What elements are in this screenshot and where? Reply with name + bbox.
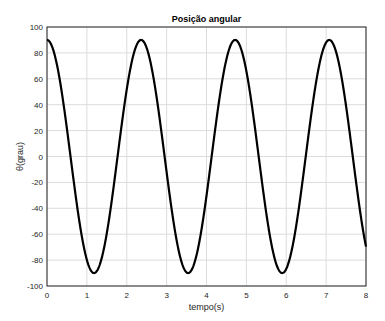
x-tick-label: 5 [244,291,249,300]
x-tick-label: 0 [45,291,50,300]
y-tick-label: 60 [34,75,43,84]
chart: 012345678100806040200-20-40-60-80-100Pos… [0,0,385,321]
x-tick-label: 6 [284,291,289,300]
y-tick-label: -60 [31,230,43,239]
x-tick-label: 7 [324,291,329,300]
y-axis-label: θ(grau) [15,142,25,171]
y-tick-label: -80 [31,256,43,265]
line-chart: 012345678100806040200-20-40-60-80-100Pos… [0,0,385,321]
y-tick-label: -40 [31,204,43,213]
y-tick-label: 20 [34,127,43,136]
x-tick-label: 8 [364,291,369,300]
y-tick-label: 0 [39,153,44,162]
chart-title: Posição angular [172,14,242,24]
x-tick-label: 2 [125,291,130,300]
y-tick-label: 80 [34,49,43,58]
y-tick-label: 40 [34,101,43,110]
x-axis-label: tempo(s) [189,302,225,312]
y-tick-label: -20 [31,178,43,187]
y-tick-label: 100 [30,23,44,32]
x-tick-label: 4 [204,291,209,300]
x-tick-label: 1 [85,291,90,300]
x-tick-label: 3 [164,291,169,300]
y-tick-label: -100 [27,282,44,291]
